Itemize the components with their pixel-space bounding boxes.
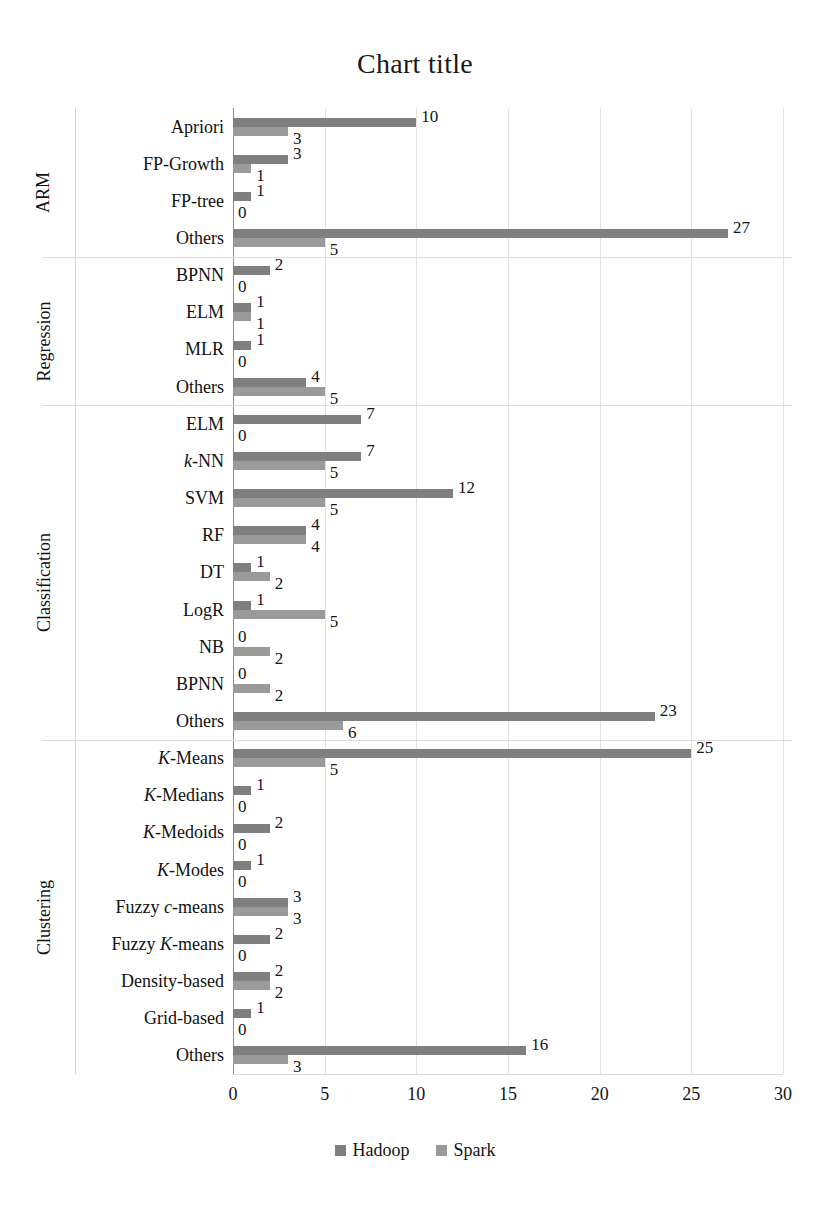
bar-row: Grid-based (0, 1000, 830, 1037)
value-label-hadoop: 1 (256, 293, 265, 310)
category-label: K-Modes (157, 861, 233, 879)
category-label: Grid-based (144, 1009, 233, 1027)
value-label-hadoop: 2 (275, 962, 284, 979)
bar-spark (233, 981, 270, 990)
group-separator (42, 405, 792, 406)
value-label-hadoop: 1 (256, 776, 265, 793)
bar-hadoop (233, 898, 288, 907)
x-tick-label: 5 (295, 1084, 355, 1105)
value-label-hadoop: 10 (421, 108, 438, 125)
bar-spark (233, 684, 270, 693)
category-label: Others (176, 378, 233, 396)
bar-spark (233, 721, 343, 730)
bar-spark (233, 647, 270, 656)
value-label-hadoop: 0 (238, 665, 247, 682)
bar-hadoop (233, 229, 728, 238)
category-label: Apriori (171, 118, 233, 136)
bar-hadoop (233, 824, 270, 833)
bar-hadoop (233, 601, 251, 610)
legend-label: Spark (454, 1140, 496, 1161)
bar-row: K-Medians (0, 777, 830, 814)
value-label-hadoop: 2 (275, 814, 284, 831)
value-label-spark: 5 (330, 390, 339, 407)
category-label: LogR (183, 601, 233, 619)
value-label-hadoop: 7 (366, 442, 375, 459)
bar-row: MLR (0, 331, 830, 368)
value-label-spark: 0 (238, 873, 247, 890)
category-label: RF (202, 526, 233, 544)
value-label-hadoop: 4 (311, 368, 320, 385)
value-label-spark: 0 (238, 798, 247, 815)
bar-hadoop (233, 935, 270, 944)
value-label-hadoop: 1 (256, 591, 265, 608)
category-label: BPNN (176, 675, 233, 693)
bar-hadoop (233, 266, 270, 275)
bar-row: RF (0, 517, 830, 554)
x-tick-label: 20 (570, 1084, 630, 1105)
x-tick-label: 0 (203, 1084, 263, 1105)
category-label: Density-based (121, 972, 233, 990)
bar-hadoop (233, 712, 655, 721)
legend-item[interactable]: Hadoop (335, 1140, 410, 1161)
value-label-hadoop: 27 (733, 219, 750, 236)
category-axis-line (233, 1074, 783, 1075)
bar-hadoop (233, 378, 306, 387)
value-label-spark: 2 (275, 650, 284, 667)
value-label-spark: 0 (238, 278, 247, 295)
bar-spark (233, 535, 306, 544)
value-label-hadoop: 1 (256, 331, 265, 348)
value-label-spark: 5 (330, 613, 339, 630)
category-label: BPNN (176, 266, 233, 284)
value-label-spark: 3 (293, 910, 302, 927)
bar-row: ELM (0, 405, 830, 442)
bar-row: K-Modes (0, 851, 830, 888)
bar-spark (233, 461, 325, 470)
x-tick-label: 25 (661, 1084, 721, 1105)
category-label: Fuzzy K-means (112, 935, 234, 953)
value-label-spark: 0 (238, 204, 247, 221)
bar-spark (233, 312, 251, 321)
value-label-hadoop: 2 (275, 925, 284, 942)
value-label-hadoop: 1 (256, 999, 265, 1016)
value-label-hadoop: 25 (696, 739, 713, 756)
bar-row: Apriori (0, 108, 830, 145)
bar-hadoop (233, 341, 251, 350)
bar-row: k-NN (0, 442, 830, 479)
value-label-spark: 0 (238, 947, 247, 964)
category-label: K-Medians (144, 786, 233, 804)
value-label-spark: 0 (238, 353, 247, 370)
value-label-hadoop: 0 (238, 628, 247, 645)
value-label-hadoop: 3 (293, 145, 302, 162)
bar-hadoop (233, 526, 306, 535)
bar-spark (233, 238, 325, 247)
bar-hadoop (233, 749, 691, 758)
bar-row: LogR (0, 591, 830, 628)
group-separator (42, 257, 792, 258)
category-label: ELM (186, 415, 233, 433)
bar-spark (233, 610, 325, 619)
value-label-hadoop: 2 (275, 256, 284, 273)
x-tick-label: 15 (478, 1084, 538, 1105)
bar-hadoop (233, 452, 361, 461)
bar-row: BPNN (0, 665, 830, 702)
bar-spark (233, 572, 270, 581)
bar-chart: Chart title Apriori103FP-Growth31FP-tree… (0, 0, 830, 1224)
x-tick-label: 30 (753, 1084, 813, 1105)
value-label-spark: 3 (293, 1058, 302, 1075)
category-label: FP-tree (171, 192, 233, 210)
bar-row: Density-based (0, 963, 830, 1000)
bar-hadoop (233, 1046, 526, 1055)
value-label-spark: 5 (330, 241, 339, 258)
category-label: K-Medoids (143, 823, 233, 841)
value-label-hadoop: 1 (256, 851, 265, 868)
bar-row: Fuzzy K-means (0, 925, 830, 962)
value-label-spark: 2 (275, 984, 284, 1001)
category-label: DT (200, 563, 233, 581)
bar-hadoop (233, 972, 270, 981)
bar-row: Others (0, 368, 830, 405)
legend-swatch-icon (335, 1145, 346, 1156)
category-label: NB (199, 638, 233, 656)
value-label-spark: 0 (238, 1021, 247, 1038)
category-label: Others (176, 229, 233, 247)
legend-item[interactable]: Spark (436, 1140, 496, 1161)
